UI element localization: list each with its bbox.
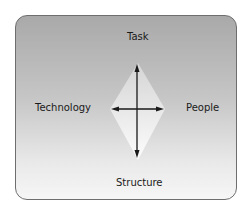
label-people: People — [186, 102, 219, 113]
label-structure: Structure — [116, 177, 163, 188]
label-technology: Technology — [35, 102, 91, 113]
label-task: Task — [127, 31, 149, 42]
